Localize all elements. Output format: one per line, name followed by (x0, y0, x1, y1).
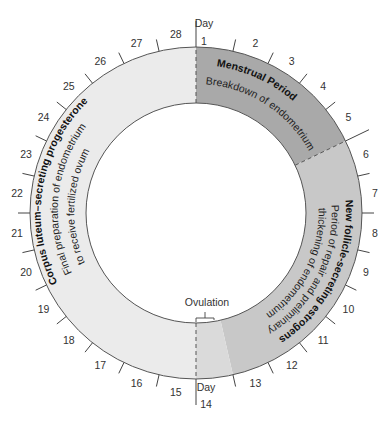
day-label-8: 8 (372, 227, 378, 239)
day-label-5: 5 (345, 111, 351, 123)
day-label-23: 23 (20, 148, 32, 160)
day-label-1: 1 (201, 35, 207, 47)
day-tick (119, 53, 124, 64)
day-tick (233, 375, 236, 387)
day-tick (85, 343, 92, 352)
day-tick (156, 39, 159, 51)
ovulation-label: Ovulation (185, 296, 230, 308)
day-tick (326, 316, 335, 323)
day-label-4: 4 (320, 80, 326, 92)
day-label-6: 6 (363, 148, 369, 160)
day-label-18: 18 (63, 334, 75, 346)
day-label-9: 9 (363, 266, 369, 278)
day-label-20: 20 (20, 266, 32, 278)
day-tick (233, 39, 236, 51)
day-tick (326, 102, 335, 109)
day-label-2: 2 (253, 37, 259, 49)
day-tick (57, 102, 66, 109)
day-label-12: 12 (286, 359, 298, 371)
day-tick (119, 363, 124, 374)
day-tick (268, 53, 273, 64)
inner-ring-outline (86, 103, 306, 323)
day-tick (156, 375, 159, 387)
day-label-24: 24 (38, 111, 50, 123)
day-tick (299, 74, 306, 83)
day-label-19: 19 (38, 303, 50, 315)
day-label-7: 7 (372, 187, 378, 199)
day-label-28: 28 (170, 28, 182, 40)
day-1-prefix-label: Day (195, 17, 214, 29)
day-tick (22, 173, 34, 176)
day-label-16: 16 (131, 377, 143, 389)
day-14-prefix-label: Day (197, 381, 216, 393)
menstrual-cycle-diagram: 1234567891011121314151617181920212223242… (0, 0, 384, 423)
day-label-13: 13 (250, 377, 262, 389)
day-label-17: 17 (94, 359, 106, 371)
day-label-21: 21 (11, 227, 23, 239)
day-label-10: 10 (343, 303, 355, 315)
day-tick (268, 363, 273, 374)
day-label-27: 27 (131, 37, 143, 49)
ovulation-marker: Ovulation (185, 296, 230, 322)
day-label-26: 26 (94, 55, 106, 67)
day-tick (85, 74, 92, 83)
day-label-25: 25 (63, 80, 75, 92)
day-tick (358, 250, 370, 253)
day-label-22: 22 (11, 187, 23, 199)
day-tick (299, 343, 306, 352)
day-tick (346, 285, 357, 290)
day-tick (57, 316, 66, 323)
day-tick (36, 285, 47, 290)
day-tick (358, 173, 370, 176)
day-label-14: 14 (200, 398, 212, 410)
day-label-11: 11 (318, 334, 329, 346)
day-tick (22, 250, 34, 253)
day-tick (36, 136, 47, 141)
ovulation-bracket (196, 312, 214, 322)
day-label-3: 3 (289, 55, 295, 67)
day-label-15: 15 (170, 386, 182, 398)
major-tick (346, 130, 369, 141)
